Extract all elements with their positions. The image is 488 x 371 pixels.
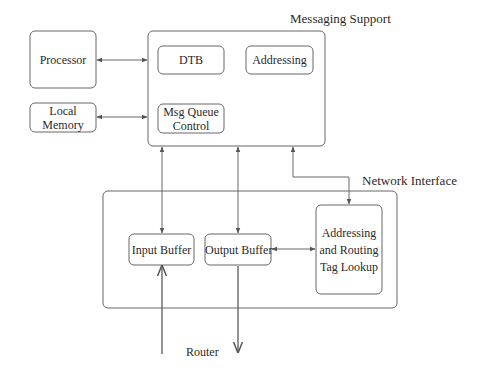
tag-lookup-line3: Tag Lookup: [316, 259, 382, 276]
router-label: Router: [186, 345, 219, 359]
msg-queue-control-label: Msg Queue Control: [158, 105, 224, 133]
local-memory-line1: Local: [30, 104, 96, 118]
processor-label: Processor: [30, 53, 96, 67]
input-buffer-label: Input Buffer: [129, 243, 194, 257]
output-buffer-label: Output Buffer: [205, 243, 271, 257]
local-memory-label: Local Memory: [30, 104, 96, 132]
local-memory-line2: Memory: [30, 118, 96, 132]
tag-lookup-link: [293, 147, 349, 204]
network-interface-title: Network Interface: [362, 173, 457, 189]
tag-lookup-line2: and Routing: [316, 242, 382, 259]
tag-lookup-label: Addressing and Routing Tag Lookup: [316, 225, 382, 276]
messaging-support-title: Messaging Support: [290, 11, 391, 27]
tag-lookup-line1: Addressing: [316, 225, 382, 242]
dtb-label: DTB: [158, 53, 224, 67]
addressing-label: Addressing: [246, 53, 313, 67]
msg-queue-line1: Msg Queue: [158, 105, 224, 119]
msg-queue-line2: Control: [158, 119, 224, 133]
